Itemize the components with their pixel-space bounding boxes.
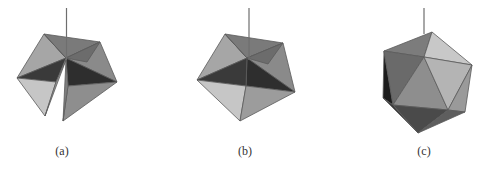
- face: [17, 78, 56, 116]
- panel-label-c: (c): [404, 144, 444, 159]
- panel-label-b: (b): [225, 144, 265, 159]
- face: [63, 82, 117, 121]
- face: [197, 80, 246, 121]
- face: [240, 86, 295, 121]
- panel-b-shape: [197, 8, 295, 121]
- panel-a-shape: [17, 8, 117, 121]
- panel-c-shape: [383, 8, 472, 133]
- panel-label-a: (a): [42, 144, 82, 159]
